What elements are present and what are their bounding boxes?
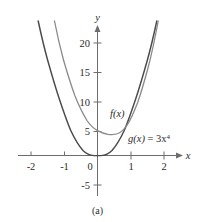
x-tick-label-neg2: -2 [27, 161, 36, 172]
y-tick-label-neg5: -5 [81, 180, 90, 191]
x-tick-label-pos2: 2 [161, 161, 166, 172]
figure-panel: -2 -1 1 2 0 20 15 10 5 -5 x y f(x) g(x) … [0, 0, 198, 222]
origin-label: 0 [87, 161, 92, 172]
x-axis-name: x [185, 150, 191, 161]
y-tick-label-5: 5 [85, 126, 90, 137]
y-axis-arrow [95, 25, 101, 32]
g-curve-label-name: g(x) [128, 133, 145, 145]
x-axis-arrow [176, 153, 183, 159]
x-tick-label-neg1: -1 [60, 161, 69, 172]
g-curve-label: g(x) = 3x4 [128, 133, 171, 146]
y-tick-label-15: 15 [80, 67, 91, 78]
y-axis-name: y [94, 12, 100, 23]
x-tick-label-pos1: 1 [128, 161, 133, 172]
g-curve-label-exponent: 4 [167, 133, 171, 141]
g-curve-label-eq: = 3x [145, 133, 167, 144]
y-tick-label-10: 10 [80, 97, 91, 108]
figure-caption: (a) [92, 205, 103, 217]
plot-svg: -2 -1 1 2 0 20 15 10 5 -5 x y f(x) g(x) … [0, 0, 198, 222]
y-axis [94, 25, 102, 196]
y-tick-label-20: 20 [80, 38, 91, 49]
f-curve-label: f(x) [110, 108, 125, 120]
